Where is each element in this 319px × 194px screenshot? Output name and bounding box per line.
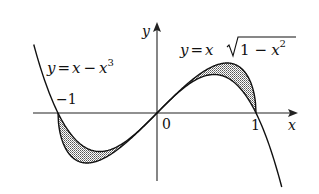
- tick-label-neg-one: −1: [56, 91, 77, 107]
- root-equation-label: y=x 1−x2: [179, 37, 296, 59]
- svg-text:1−x2: 1−x2: [240, 38, 286, 59]
- x-axis-label: x: [288, 117, 296, 133]
- curve-cubic: [34, 45, 282, 188]
- cubic-equation-label: y=x−x3: [46, 57, 114, 77]
- y-axis: [153, 22, 161, 181]
- origin-label: 0: [162, 116, 171, 132]
- y-axis-label: y: [141, 23, 151, 39]
- function-plot: y x 0 −1 1 y=x−x3 y=x 1−x2: [0, 0, 319, 194]
- svg-text:y=x−x3: y=x−x3: [46, 57, 114, 77]
- svg-text:y=x: y=x: [179, 41, 214, 59]
- tick-label-one: 1: [251, 117, 260, 133]
